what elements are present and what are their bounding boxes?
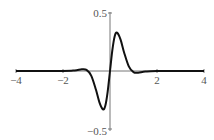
- y-tick-label: 0.5: [93, 7, 107, 19]
- x-tick-label: 2: [154, 74, 160, 86]
- y-tick-label: −0.5: [87, 125, 107, 137]
- x-tick-label: 4: [201, 74, 207, 86]
- plot-svg: −4−2240.5−0.5: [0, 0, 214, 140]
- x-tick-label: −4: [10, 74, 22, 86]
- chart: −4−2240.5−0.5: [0, 0, 214, 140]
- x-tick-label: −2: [57, 74, 69, 86]
